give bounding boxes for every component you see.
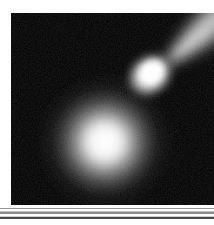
- comet-photograph: [11, 13, 214, 205]
- page-root: [0, 0, 214, 225]
- sky-canvas: [11, 13, 214, 205]
- divider-line-8: [0, 219, 214, 221]
- horizontal-divider: [0, 208, 214, 221]
